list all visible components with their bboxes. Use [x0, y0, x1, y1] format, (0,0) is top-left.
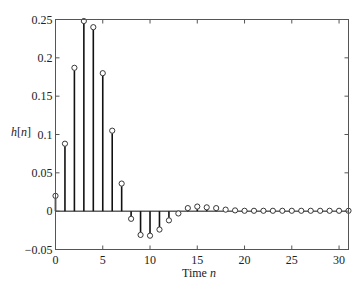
y-tick-label: 0.05	[32, 166, 53, 180]
open-circle-marker	[242, 208, 247, 213]
y-tick-label: 0.1	[38, 128, 53, 142]
open-circle-marker	[100, 71, 105, 76]
x-axis-label: Time n	[182, 266, 216, 280]
stem-point	[308, 208, 313, 213]
open-circle-marker	[318, 208, 323, 213]
open-circle-marker	[185, 206, 190, 211]
y-tick-label: −0.05	[25, 243, 53, 257]
open-circle-marker	[232, 208, 237, 213]
stem-point	[289, 208, 294, 213]
x-axis-ticks: 051015202530	[53, 20, 346, 267]
open-circle-marker	[110, 128, 115, 133]
stem-point	[157, 211, 162, 232]
stem-point	[318, 208, 323, 213]
stem-point	[91, 25, 96, 212]
stem-point	[280, 208, 285, 213]
open-circle-marker	[261, 208, 266, 213]
stem-point	[223, 207, 228, 212]
open-circle-marker	[214, 206, 219, 211]
stem-plot: 051015202530 −0.0500.050.10.150.20.25 Ti…	[0, 0, 362, 286]
y-axis-ticks: −0.0500.050.10.150.20.25	[25, 13, 349, 257]
open-circle-marker	[176, 211, 181, 216]
open-circle-marker	[204, 205, 209, 210]
open-circle-marker	[129, 216, 134, 221]
open-circle-marker	[91, 25, 96, 30]
y-tick-label: 0.15	[32, 89, 53, 103]
open-circle-marker	[223, 207, 228, 212]
stem-point	[147, 211, 152, 238]
plot-border	[56, 20, 349, 250]
open-circle-marker	[147, 233, 152, 238]
stem-point	[176, 211, 181, 216]
stem-point	[336, 208, 341, 213]
y-axis-label: h[n]	[11, 125, 31, 139]
stem-point	[119, 181, 124, 211]
stem-point	[242, 208, 247, 213]
stem-point	[110, 128, 115, 211]
stem-point	[62, 141, 67, 211]
open-circle-marker	[270, 208, 275, 213]
y-tick-label: 0	[47, 204, 53, 218]
stem-point	[270, 208, 275, 213]
open-circle-marker	[299, 208, 304, 213]
axes-frame	[56, 20, 349, 250]
stem-point	[214, 206, 219, 212]
open-circle-marker	[72, 65, 77, 70]
stem-point	[72, 65, 77, 211]
open-circle-marker	[166, 218, 171, 223]
stem-point	[129, 211, 134, 221]
stem-point	[195, 204, 200, 211]
x-tick-label: 20	[239, 253, 251, 267]
open-circle-marker	[308, 208, 313, 213]
stem-point	[327, 208, 332, 213]
stem-point	[299, 208, 304, 213]
stem-point	[185, 206, 190, 212]
open-circle-marker	[62, 141, 67, 146]
y-tick-label: 0.25	[32, 13, 53, 27]
x-tick-label: 25	[286, 253, 298, 267]
open-circle-marker	[327, 208, 332, 213]
x-tick-label: 0	[53, 253, 59, 267]
open-circle-marker	[119, 181, 124, 186]
open-circle-marker	[195, 204, 200, 209]
stem-point	[81, 18, 86, 211]
open-circle-marker	[289, 208, 294, 213]
stem-point	[100, 71, 105, 212]
x-tick-label: 30	[333, 253, 345, 267]
x-tick-label: 10	[144, 253, 156, 267]
stem-point	[166, 211, 171, 223]
open-circle-marker	[251, 208, 256, 213]
stem-point	[251, 208, 256, 213]
stem-series	[53, 18, 351, 238]
y-tick-label: 0.2	[38, 51, 53, 65]
stem-point	[232, 208, 237, 213]
open-circle-marker	[280, 208, 285, 213]
open-circle-marker	[336, 208, 341, 213]
stem-point	[261, 208, 266, 213]
stem-point	[204, 205, 209, 211]
open-circle-marker	[157, 227, 162, 232]
x-tick-label: 15	[191, 253, 203, 267]
stem-point	[138, 211, 143, 237]
x-tick-label: 5	[100, 253, 106, 267]
open-circle-marker	[138, 232, 143, 237]
